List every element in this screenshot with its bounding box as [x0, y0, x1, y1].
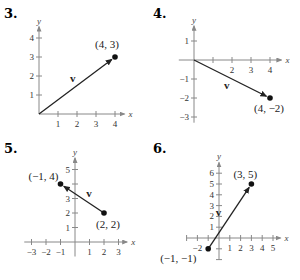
y-tick-label: 3: [30, 52, 35, 62]
vector-graphs-figure: 3.xy12341234v(4, 3)4.xy2341−1−2−3v(4, −2…: [0, 0, 300, 280]
y-axis-label: y: [36, 16, 41, 26]
y-axis-label: y: [72, 147, 77, 157]
x-tick-label: 1: [56, 119, 61, 129]
y-tick-label: 3: [66, 194, 71, 204]
x-tick-label: 3: [249, 243, 254, 253]
x-tick-label: 2: [238, 243, 243, 253]
y-tick-label: −2: [179, 93, 189, 103]
x-tick-label: 5: [271, 243, 276, 253]
y-tick-label: 2: [66, 208, 71, 218]
x-axis-label: x: [284, 233, 289, 243]
startpoint-dot: [205, 246, 211, 252]
endpoint-dot: [112, 54, 118, 60]
point-label: (−1, 4): [29, 170, 59, 183]
y-tick-label: 1: [210, 222, 215, 232]
graph-panel-4: 4.xy2341−1−2−3v(4, −2): [153, 6, 289, 123]
x-tick-label: 4: [113, 119, 118, 129]
y-tick-label: 5: [66, 165, 71, 175]
point-label: (2, 2): [96, 218, 120, 231]
x-tick-label: 3: [94, 119, 99, 129]
x-tick-label: 1: [228, 243, 233, 253]
vector-v: [39, 59, 112, 114]
x-tick-label: 4: [268, 65, 273, 75]
point-label: (4, 3): [95, 38, 119, 51]
y-tick-label: 4: [30, 33, 35, 43]
vector-label: v: [224, 79, 230, 91]
y-axis-label: y: [191, 15, 196, 25]
y-tick-label: 6: [210, 168, 215, 178]
x-axis-label: x: [128, 109, 133, 119]
y-tick-label: 1: [30, 90, 35, 100]
y-tick-label: 5: [210, 179, 215, 189]
graph-panel-5: 5.xy−3−2−11231235v(−1, 4)(2, 2): [4, 141, 135, 257]
vector-label: v: [86, 187, 92, 199]
y-tick-label: 1: [185, 36, 190, 46]
x-axis-label: x: [284, 55, 289, 65]
y-tick-label: 4: [210, 190, 215, 200]
problem-number: 6.: [153, 141, 167, 156]
x-tick-label: 4: [260, 243, 265, 253]
graph-panel-6: 6.xy−212345123456v(3, 5)(−1, −1): [153, 141, 289, 265]
vector-label: v: [216, 206, 222, 218]
y-tick-label: −3: [179, 112, 189, 122]
x-tick-label: −2: [41, 247, 51, 257]
vector-v: [208, 187, 249, 248]
endpoint-dot: [58, 181, 64, 187]
x-tick-label: 2: [75, 119, 80, 129]
y-tick-label: −1: [179, 74, 189, 84]
y-axis-label: y: [216, 151, 221, 161]
x-tick-label: −1: [56, 247, 66, 257]
point-label: (3, 5): [233, 168, 257, 181]
graph-panel-3: 3.xy12341234v(4, 3): [4, 6, 133, 129]
vector-label: v: [70, 72, 76, 84]
startpoint-dot: [101, 210, 107, 216]
problem-number: 3.: [4, 6, 18, 21]
endpoint-dot: [249, 181, 255, 187]
point-label: (−1, −1): [160, 252, 197, 265]
x-tick-label: −3: [27, 247, 37, 257]
x-tick-label: 2: [230, 65, 235, 75]
x-tick-label: 3: [249, 65, 254, 75]
x-tick-label: 1: [87, 247, 92, 257]
endpoint-dot: [267, 95, 273, 101]
x-axis-label: x: [130, 237, 135, 247]
y-tick-label: 3: [210, 201, 215, 211]
y-tick-label: 2: [30, 71, 35, 81]
y-tick-label: 1: [66, 223, 71, 233]
x-tick-label: 2: [102, 247, 107, 257]
point-label: (4, −2): [254, 102, 284, 115]
problem-number: 5.: [4, 141, 18, 156]
problem-number: 4.: [153, 6, 167, 21]
y-tick-label: 2: [210, 211, 215, 221]
x-tick-label: 3: [116, 247, 121, 257]
